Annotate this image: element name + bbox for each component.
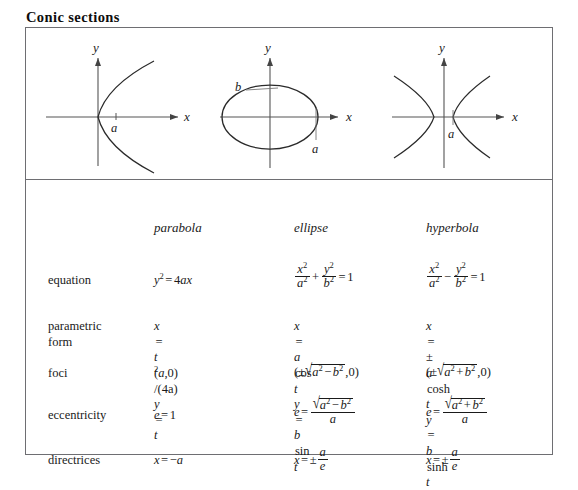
- ellipse-x-axis-label: x: [345, 109, 352, 124]
- foci-parabola: (a,0): [154, 366, 290, 382]
- conic-properties-table: parabola ellipse hyperbola equation y2=4…: [26, 180, 552, 455]
- equation-ellipse: x2 a2 + y2 b2 =1: [294, 264, 426, 292]
- dir-hyp-frac: a e: [450, 446, 460, 474]
- eccentricity-hyperbola: e= √a2+b2 a: [426, 399, 558, 428]
- param-ell-x: x=acost: [294, 319, 426, 397]
- ellipse-b-leader: [246, 88, 278, 90]
- eq-hyp-op: −: [443, 270, 453, 284]
- column-header-ellipse: ellipse: [294, 220, 426, 236]
- eccentricity-parabola: e=1: [154, 408, 290, 424]
- row-label-parametric-form: parametric form: [48, 319, 144, 350]
- page-title: Conic sections: [26, 9, 120, 26]
- conic-sections-box: x y a x y b a: [25, 27, 553, 455]
- parabola-a-label: a: [111, 121, 117, 135]
- foci-hyperbola: (±√a2+b2,0): [426, 364, 558, 381]
- parabola-x-axis-label: x: [183, 109, 190, 124]
- ellipse-a-label: a: [312, 142, 318, 156]
- hyperbola-y-axis-label: y: [437, 40, 445, 55]
- figure-parabola: x y a: [26, 28, 202, 179]
- ellipse-x-arrow: [330, 114, 338, 120]
- eq-par-rel: =: [164, 273, 174, 287]
- row-label-equation: equation: [48, 273, 144, 289]
- param-par-x: x=t2/(4a): [154, 319, 290, 397]
- eq-ell-rel: =: [337, 270, 347, 284]
- row-label-foci: foci: [48, 366, 144, 382]
- column-header-parabola: parabola: [154, 220, 290, 236]
- hyperbola-x-axis-label: x: [511, 109, 518, 124]
- eq-ell-term1: x2 a2: [295, 263, 310, 291]
- hyperbola-a-label: a: [448, 127, 454, 141]
- foci-hyp-sqrt: √a2+b2: [437, 364, 477, 381]
- parabola-x-arrow: [170, 114, 178, 120]
- directrices-hyperbola: x=± a e: [426, 447, 558, 475]
- row-label-eccentricity: eccentricity: [48, 408, 144, 424]
- row-label-directrices: directrices: [48, 453, 144, 469]
- eq-ell-op: +: [311, 270, 321, 284]
- eq-par-vars: ax: [180, 273, 192, 287]
- ecc-hyp-frac: √a2+b2 a: [443, 398, 487, 427]
- eq-hyp-term1: x2 a2: [427, 263, 442, 291]
- eq-hyp-term2: y2 b2: [454, 263, 469, 291]
- eq-ell-rhs: 1: [347, 270, 353, 284]
- directrices-ellipse: x=± a e: [294, 447, 426, 475]
- equation-hyperbola: x2 a2 − y2 b2 =1: [426, 264, 558, 292]
- eccentricity-ellipse: e= √a2−b2 a: [294, 399, 426, 428]
- hyperbola-y-arrow: [441, 58, 447, 66]
- foci-ell-sqrt: √a2−b2: [305, 364, 345, 381]
- figure-hyperbola: x y a: [378, 28, 554, 179]
- equation-parabola: y2=4ax: [154, 273, 290, 289]
- ellipse-b-label: b: [235, 80, 241, 94]
- foci-ellipse: (±√a2−b2,0): [294, 364, 426, 381]
- ecc-ell-frac: √a2−b2 a: [311, 398, 355, 427]
- row-label-parametric-line2: form: [48, 335, 144, 351]
- figure-ellipse: x y b a: [202, 28, 378, 179]
- column-header-hyperbola: hyperbola: [426, 220, 558, 236]
- hyperbola-x-arrow: [496, 114, 504, 120]
- eq-hyp-rel: =: [469, 270, 479, 284]
- row-label-parametric-line1: parametric: [48, 319, 144, 335]
- dir-ell-frac: a e: [318, 446, 328, 474]
- directrices-parabola: x=−a: [154, 453, 290, 469]
- eq-hyp-rhs: 1: [479, 270, 485, 284]
- figures-panel: x y a x y b a: [26, 28, 552, 180]
- parabola-y-arrow: [95, 58, 101, 66]
- parabola-y-axis-label: y: [91, 40, 99, 55]
- ellipse-y-axis-label: y: [263, 40, 271, 55]
- eq-ell-term2: y2 b2: [322, 263, 337, 291]
- ellipse-y-arrow: [267, 58, 273, 66]
